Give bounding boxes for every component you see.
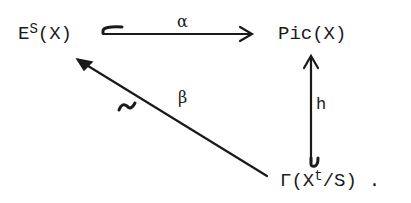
pic-label: Pic(X) xyxy=(278,23,346,45)
gamma-pre: Γ(X xyxy=(280,170,314,192)
gamma-period: . xyxy=(369,170,380,192)
gamma-post: /S) xyxy=(323,170,357,192)
es-rest: (X) xyxy=(38,23,72,45)
node-pic-x: Pic(X) xyxy=(278,25,346,44)
beta-label: β xyxy=(178,90,187,106)
h-label: h xyxy=(316,96,326,113)
es-base: E xyxy=(18,23,29,45)
gamma-sup: t xyxy=(314,168,322,184)
node-gamma: Γ(Xt/S). xyxy=(280,172,380,191)
node-es-x: ES(X) xyxy=(18,25,72,44)
beta-arrow xyxy=(77,59,267,176)
isomorphism-tilde-icon xyxy=(119,103,135,110)
es-sup: S xyxy=(29,21,37,37)
alpha-label: α xyxy=(177,14,188,30)
